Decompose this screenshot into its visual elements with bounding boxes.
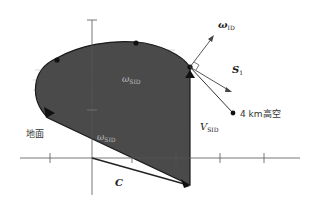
omega-vector [190,38,212,67]
altitude-label: 4 km高空 [240,110,281,119]
inner-label-top: ωSID [122,75,141,85]
c-label: C [115,178,123,188]
s-vector [190,67,230,91]
right-angle-marker [194,62,199,70]
altitude-point [231,111,236,116]
inner-label-bottom: ωSID [97,133,116,143]
omega-label: ωID [218,20,235,31]
ground-label: 地面 [26,130,44,139]
s-label: S1 [232,65,243,76]
s-arrowhead [225,87,232,92]
diagram-canvas [0,0,314,207]
v-label: VSID [200,122,219,133]
boundary-point-top [133,40,138,45]
boundary-point-left [54,57,59,62]
omega-arrowhead [208,35,214,42]
